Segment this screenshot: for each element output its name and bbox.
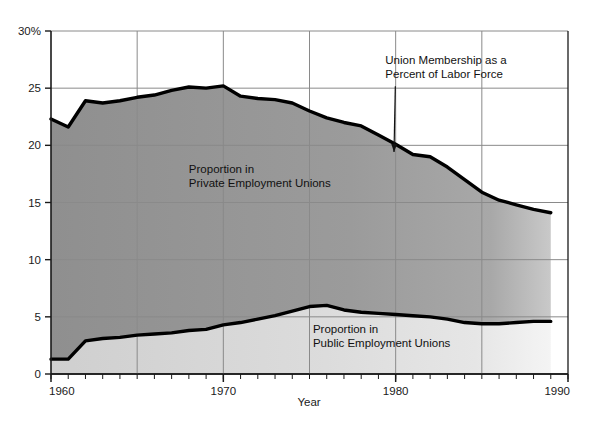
private-band-label-line1: Proportion in	[189, 163, 254, 175]
total-curve-callout-line2: Percent of Labor Force	[385, 68, 503, 80]
union-membership-chart: 051015202530% 1960197019801990 Year Prop…	[0, 0, 602, 431]
y-tick-label-10: 10	[28, 254, 41, 266]
x-tick-label-1980: 1980	[383, 385, 409, 397]
public-band-label-line2: Public Employment Unions	[313, 337, 451, 349]
y-tick-label-0: 0	[35, 368, 41, 380]
x-tick-label-1990: 1990	[544, 385, 570, 397]
x-tick-label-1960: 1960	[49, 385, 75, 397]
y-tick-label-5: 5	[35, 311, 41, 323]
chart-canvas: 051015202530% 1960197019801990 Year Prop…	[0, 0, 602, 431]
y-tick-label-20: 20	[28, 139, 41, 151]
y-tick-label-15: 15	[28, 197, 41, 209]
y-tick-label-25: 25	[28, 82, 41, 94]
public-band-label-line1: Proportion in	[313, 323, 378, 335]
x-axis-title: Year	[297, 396, 320, 408]
total-curve-callout-line1: Union Membership as a	[385, 54, 507, 66]
y-tick-label-30: 30%	[18, 25, 41, 37]
x-tick-label-1970: 1970	[211, 385, 237, 397]
private-band-label-line2: Private Employment Unions	[189, 177, 331, 189]
